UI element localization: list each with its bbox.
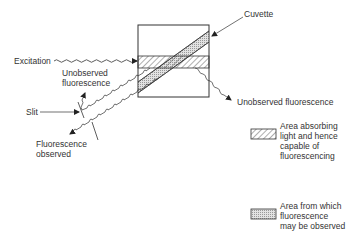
cuvette-leader [212,17,243,36]
cuvette-label: Cuvette [244,9,273,19]
slit-label: Slit [26,107,38,117]
legend-hatched-line-2: light and hence [280,131,338,141]
fluorescence-observed-label-1: Fluorescence [36,139,87,149]
unobserved-fluorescence-left-label-2: fluorescence [62,78,110,88]
fluorescence-observed-label-2: observed [36,149,71,159]
legend-hatched-line-1: Area absorbing [280,121,338,131]
excitation-label: Excitation [14,56,51,66]
unobserved-fluorescence-right-label: Unobserved fluorescence [237,97,333,107]
legend-stippled-line-3: may be observed [280,221,345,231]
legend-swatch-hatched [251,129,276,139]
legend-stippled-line-1: Area from which [280,201,341,211]
legend-hatched-line-4: fluorescencing [280,151,335,161]
unobserved-deflect-arrow [81,93,85,110]
slit-mark-2 [92,122,98,140]
unobserved-fluorescence-left-label-1: Unobserved [62,68,108,78]
legend-stippled-line-2: fluorescence [280,211,328,221]
slit-mark-1 [78,102,84,118]
excitation-wave [54,60,137,63]
legend-swatch-stippled [251,209,276,219]
absorbing-region-band [138,56,209,68]
legend-hatched-line-3: capable of [280,141,319,151]
